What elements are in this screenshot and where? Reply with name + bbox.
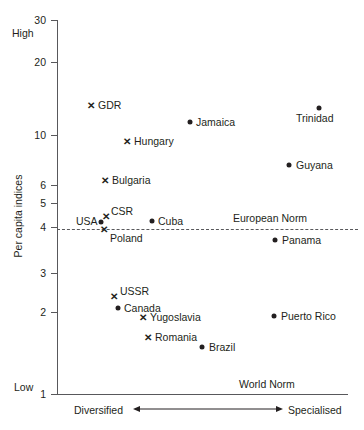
data-point-label: Trinidad	[296, 113, 334, 124]
data-point-hungary[interactable]: ✕	[123, 137, 132, 146]
y-tick-label: 2	[40, 307, 46, 318]
y-axis-title: Per capita indices	[12, 156, 24, 276]
y-tick-label: 1	[40, 389, 46, 400]
x-axis-right-direction-label: Specialised	[288, 404, 342, 416]
data-point-label: Bulgaria	[112, 175, 151, 186]
y-tick-label: 3	[40, 268, 46, 279]
data-point-romania[interactable]: ✕	[144, 333, 153, 342]
data-point-label: Hungary	[134, 136, 174, 147]
y-axis-high-label: High	[12, 28, 34, 39]
data-point-label: Canada	[124, 303, 161, 314]
data-point-brazil[interactable]	[200, 345, 205, 350]
data-point-cuba[interactable]	[150, 219, 155, 224]
y-tick-mark	[51, 312, 57, 313]
y-tick-label: 5	[40, 198, 46, 209]
y-tick-mark	[51, 135, 57, 136]
y-tick-mark	[51, 273, 57, 274]
data-point-panama[interactable]	[273, 238, 278, 243]
y-axis-low-label: Low	[14, 382, 33, 393]
y-tick-mark	[51, 227, 57, 228]
world-norm-label: World Norm	[239, 379, 295, 390]
data-point-label: USSR	[120, 286, 149, 297]
data-point-label: Cuba	[158, 216, 183, 227]
data-point-label: GDR	[98, 100, 121, 111]
data-point-label: Poland	[110, 233, 143, 244]
y-tick-mark	[51, 20, 57, 21]
y-tick-label: 30	[34, 15, 46, 26]
scatter-chart: 302010654321 Per capita indices High Low…	[0, 0, 364, 430]
data-point-csr[interactable]: ✕	[102, 212, 111, 221]
data-point-guyana[interactable]	[287, 163, 292, 168]
data-point-poland[interactable]: ✕	[100, 225, 109, 234]
x-axis-left-direction-label: Diversified	[74, 404, 123, 416]
data-point-label: Romania	[155, 332, 197, 343]
y-tick-label: 20	[34, 57, 46, 68]
y-tick-mark	[51, 203, 57, 204]
data-point-canada[interactable]	[116, 306, 121, 311]
y-tick-label: 10	[34, 130, 46, 141]
data-point-label: Guyana	[296, 160, 333, 171]
data-point-gdr[interactable]: ✕	[87, 101, 96, 110]
x-axis-line	[57, 394, 348, 395]
european-norm-label: European Norm	[233, 213, 307, 224]
y-tick-label: 6	[40, 180, 46, 191]
data-point-label: Brazil	[209, 342, 235, 353]
data-point-label: CSR	[111, 206, 133, 217]
data-point-puerto-rico[interactable]	[272, 314, 277, 319]
data-point-ussr[interactable]: ✕	[110, 292, 119, 301]
data-point-bulgaria[interactable]: ✕	[101, 176, 110, 185]
data-point-label: Panama	[282, 235, 321, 246]
data-point-jamaica[interactable]	[188, 120, 193, 125]
data-point-usa[interactable]	[99, 220, 104, 225]
data-point-label: USA	[76, 216, 98, 227]
y-tick-label: 4	[40, 222, 46, 233]
data-point-label: Puerto Rico	[281, 311, 336, 322]
y-axis-line	[57, 20, 58, 395]
data-point-label: Jamaica	[196, 117, 235, 128]
y-tick-mark	[51, 62, 57, 63]
y-tick-mark	[51, 185, 57, 186]
direction-arrow-icon	[133, 403, 283, 415]
data-point-trinidad[interactable]	[317, 106, 322, 111]
y-tick-mark	[51, 394, 57, 395]
